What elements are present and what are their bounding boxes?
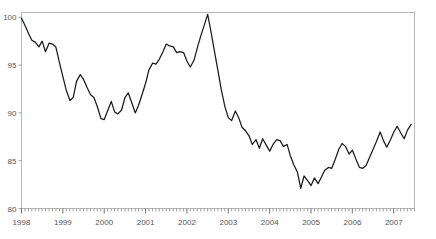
- x-tick-label: 2002: [178, 218, 196, 227]
- chart-container: 80859095100 1998199920002001200220032004…: [0, 0, 436, 239]
- x-tick-label: 2005: [302, 218, 320, 227]
- x-tick-label: 1998: [13, 218, 31, 227]
- y-tick-label: 90: [8, 109, 17, 118]
- x-tick-label: 2004: [261, 218, 279, 227]
- y-tick-label: 100: [3, 13, 17, 22]
- plot-frame: [22, 13, 415, 209]
- y-tick-label: 85: [8, 157, 17, 166]
- y-tick-label: 95: [8, 61, 17, 70]
- x-axis-tick-labels: 1998199920002001200220032004200520062007: [13, 218, 404, 227]
- x-tick-label: 2007: [385, 218, 403, 227]
- x-tick-label: 1999: [54, 218, 72, 227]
- x-tick-label: 2001: [137, 218, 155, 227]
- x-tick-label: 2006: [344, 218, 362, 227]
- y-tick-label: 80: [8, 205, 17, 214]
- x-tick-label: 2003: [219, 218, 237, 227]
- x-tick-label: 2000: [95, 218, 113, 227]
- line-chart: 80859095100 1998199920002001200220032004…: [0, 0, 436, 239]
- data-series-line: [22, 14, 412, 188]
- x-axis-ticks: [22, 209, 415, 214]
- y-axis-tick-labels: 80859095100: [3, 13, 17, 213]
